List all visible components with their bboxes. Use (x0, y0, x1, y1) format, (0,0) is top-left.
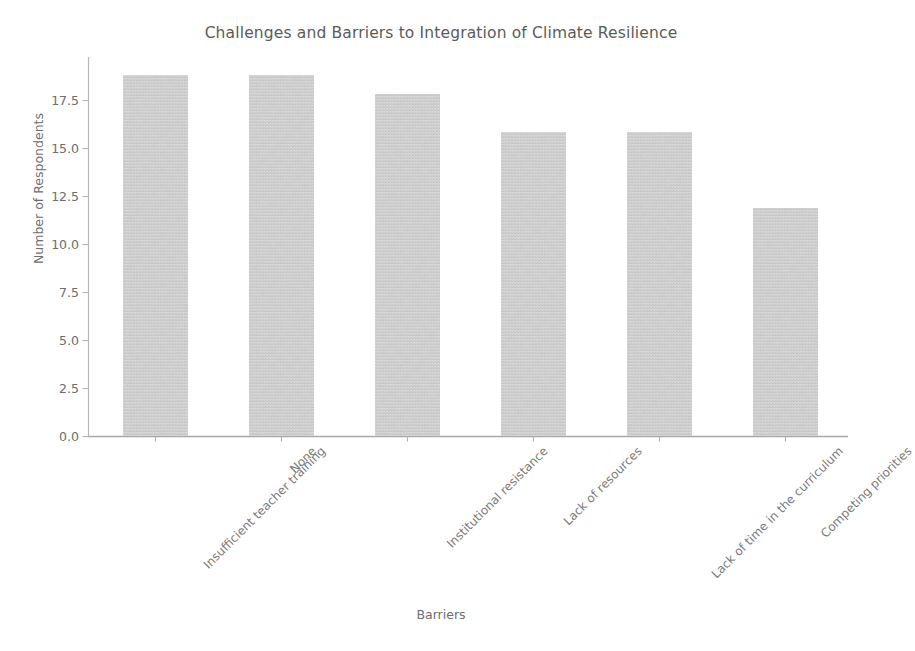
y-tick-7: 17.5 (51, 93, 79, 108)
chart-title: Challenges and Barriers to Integration o… (0, 24, 882, 42)
y-tick-6: 15.0 (51, 141, 79, 156)
y-tick-4: 10.0 (51, 237, 79, 252)
bar-insufficient-teacher-training (123, 75, 188, 436)
y-tick-0: 0.0 (59, 429, 79, 444)
x-tick-2: Institutional resistance (444, 444, 551, 551)
y-tick-3: 7.5 (59, 285, 79, 300)
x-tick-3: Lack of resources (561, 444, 645, 528)
plot-area (88, 57, 848, 436)
x-axis-label: Barriers (0, 607, 882, 622)
x-axis-tick-labels: Insufficient teacher training None Insti… (0, 444, 882, 604)
bar-lack-of-time-in-the-curriculum (627, 132, 692, 436)
bar-competing-priorities (753, 208, 818, 436)
bar-none (249, 75, 314, 436)
y-tick-5: 12.5 (51, 189, 79, 204)
x-tick-4: Lack of time in the curriculum (709, 444, 846, 581)
y-axis-label: Number of Respondents (31, 39, 46, 339)
y-tick-1: 2.5 (59, 381, 79, 396)
y-tick-2: 5.0 (59, 333, 79, 348)
bar-institutional-resistance (375, 94, 440, 436)
bar-lack-of-resources (501, 132, 566, 436)
